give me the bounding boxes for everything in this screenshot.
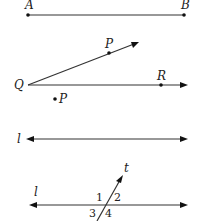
- point-p-outside: [53, 97, 57, 101]
- label-q: Q: [14, 78, 24, 92]
- arrowhead-icon: [180, 82, 188, 88]
- line-l: l: [17, 132, 188, 146]
- arrowhead-icon: [29, 202, 37, 208]
- point-r: [159, 83, 163, 87]
- angle-pqr: Q P R P: [14, 37, 188, 106]
- arrowhead-icon: [131, 42, 139, 48]
- label-t: t: [124, 161, 129, 175]
- segment-ab: A B: [24, 0, 190, 17]
- geometry-figures: A B Q P R P l l t 1 2 3 4: [0, 0, 203, 221]
- point-a: [26, 13, 30, 17]
- label-b: B: [180, 0, 190, 12]
- label-p-outside: P: [58, 92, 68, 106]
- angle-label-3: 3: [89, 207, 96, 220]
- label-l: l: [17, 132, 21, 146]
- transversal-figure: l t 1 2 3 4: [29, 161, 188, 221]
- label-r: R: [156, 69, 166, 83]
- point-b: [182, 13, 186, 17]
- arrowhead-icon: [26, 136, 34, 142]
- label-line-l: l: [34, 185, 38, 199]
- label-a: A: [24, 0, 34, 12]
- arrowhead-icon: [116, 175, 123, 183]
- label-p-upper: P: [104, 37, 114, 51]
- angle-label-2: 2: [114, 191, 121, 204]
- point-p-on-ray: [107, 51, 111, 55]
- angle-label-4: 4: [105, 207, 112, 220]
- angle-label-1: 1: [96, 191, 103, 204]
- arrowhead-icon: [180, 136, 188, 142]
- arrowhead-icon: [180, 202, 188, 208]
